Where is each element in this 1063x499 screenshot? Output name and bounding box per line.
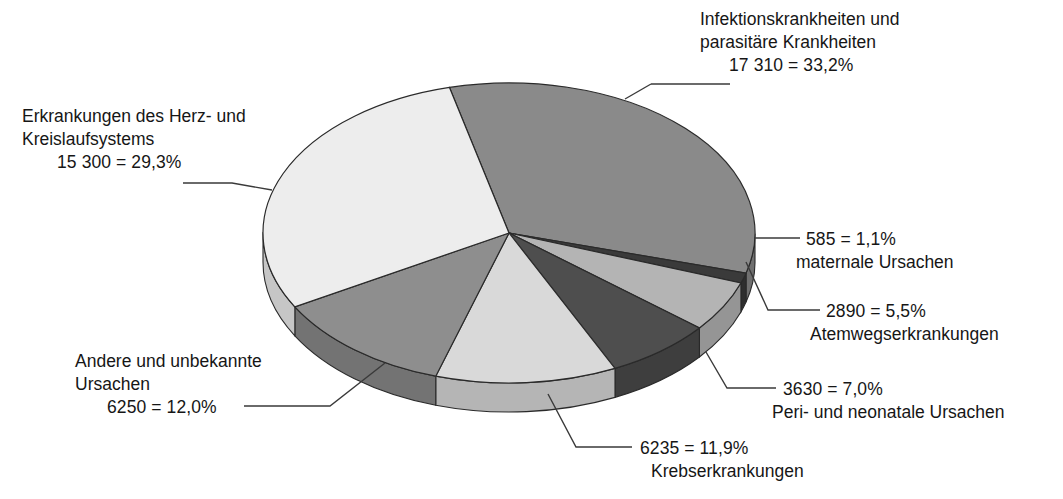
label-infektionskrankheiten: Infektionskrankheiten und parasitäre Kra… [700, 8, 899, 77]
label-krebserkrankungen-value: 6235 = 11,9% [640, 437, 804, 460]
label-infektionskrankheiten-value: 17 310 = 33,2% [729, 54, 899, 77]
label-maternale-ursachen-name: maternale Ursachen [796, 251, 954, 274]
label-andere-ursachen: Andere und unbekannte Ursachen 6250 = 12… [75, 350, 262, 419]
label-infektionskrankheiten-line2: parasitäre Krankheiten [700, 31, 899, 54]
leader-line-perinatal [706, 352, 776, 388]
pie-chart-figure: Infektionskrankheiten und parasitäre Kra… [0, 0, 1063, 499]
label-krebserkrankungen: 6235 = 11,9% Krebserkrankungen [640, 437, 804, 483]
label-infektionskrankheiten-line1: Infektionskrankheiten und [700, 8, 899, 31]
leader-line-herz [183, 183, 272, 190]
label-andere-ursachen-line2: Ursachen [75, 373, 262, 396]
pie-top-faces [263, 83, 755, 383]
label-maternale-ursachen-value: 585 = 1,1% [806, 228, 954, 251]
label-perinatale-ursachen-name: Peri- und neonatale Ursachen [772, 401, 1005, 424]
label-krebserkrankungen-name: Krebserkrankungen [651, 460, 804, 483]
label-herz-kreislauf: Erkrankungen des Herz- und Kreislaufsyst… [22, 105, 246, 174]
label-herz-kreislauf-line1: Erkrankungen des Herz- und [22, 105, 246, 128]
label-perinatale-ursachen: 3630 = 7,0% Peri- und neonatale Ursachen [783, 378, 1005, 424]
label-andere-ursachen-value: 6250 = 12,0% [107, 396, 262, 419]
label-perinatale-ursachen-value: 3630 = 7,0% [783, 378, 1005, 401]
label-herz-kreislauf-line2: Kreislaufsystems [22, 128, 246, 151]
label-andere-ursachen-line1: Andere und unbekannte [75, 350, 262, 373]
label-maternale-ursachen: 585 = 1,1% maternale Ursachen [806, 228, 954, 274]
label-herz-kreislauf-value: 15 300 = 29,3% [57, 151, 246, 174]
label-atemwegserkrankungen: 2890 = 5,5% Atemwegserkrankungen [826, 300, 999, 346]
label-atemwegserkrankungen-value: 2890 = 5,5% [826, 300, 999, 323]
label-atemwegserkrankungen-name: Atemwegserkrankungen [810, 323, 999, 346]
leader-line-infektions-hook [625, 84, 651, 99]
